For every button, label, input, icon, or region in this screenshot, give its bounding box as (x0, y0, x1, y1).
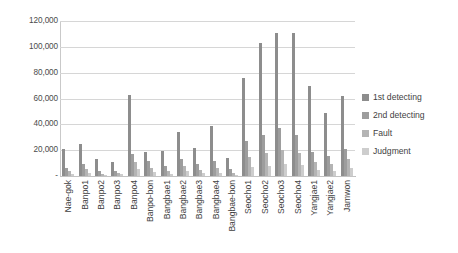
y-axis: -20,00040,00060,00080,000100,000120,000 (3, 0, 58, 253)
x-axis: Nae-gokBanpo1Banpo2Banpo3Banpo4Banpo-bon… (60, 178, 355, 253)
x-axis-tick-label: Bangbae-bon (228, 128, 237, 180)
x-axis-tick-label: Bangbae1 (163, 141, 172, 180)
x-axis-tick-label: Yangjae2 (326, 144, 335, 180)
x-axis-tick: Yangjae2 (322, 178, 338, 253)
x-axis-tick-label: Seocho3 (277, 146, 286, 180)
x-axis-tick-label: Bangbae4 (212, 141, 221, 180)
x-axis-tick: Bangbae-bon (224, 178, 240, 253)
y-axis-tick-label: 60,000 (6, 95, 58, 103)
x-axis-tick: Seocho1 (240, 178, 256, 253)
y-axis-tick-label: - (6, 172, 58, 180)
x-axis-tick: Bangbae3 (191, 178, 207, 253)
x-axis-tick-label: Yangjae1 (310, 144, 319, 180)
x-axis-tick: Banpo3 (109, 178, 125, 253)
x-axis-tick-label: Banpo4 (130, 150, 139, 180)
legend-swatch-icon (362, 148, 369, 155)
x-axis-tick-label: Nae-gok (64, 148, 73, 180)
x-axis-tick: Banpo-bon (142, 178, 158, 253)
y-axis-tick-label: 20,000 (6, 146, 58, 154)
legend-item-label: Fault (373, 129, 392, 138)
x-axis-tick-label: Bangbae3 (195, 141, 204, 180)
y-axis-tick-label: 120,000 (6, 17, 58, 25)
legend-item[interactable]: Judgment (362, 142, 456, 160)
legend-item[interactable]: 2nd detecting (362, 106, 456, 124)
x-axis-tick: Banpo2 (93, 178, 109, 253)
x-axis-tick: Banpo1 (76, 178, 92, 253)
legend-item-label: 1st detecting (373, 93, 422, 102)
x-axis-tick: Seocho3 (273, 178, 289, 253)
x-axis-tick-label: Banpo2 (97, 150, 106, 180)
x-axis-tick: Yangjae1 (306, 178, 322, 253)
x-axis-tick: Bangbae4 (208, 178, 224, 253)
bar-chart: -20,00040,00060,00080,000100,000120,000 … (0, 0, 458, 253)
x-axis-tick: Bangbae2 (175, 178, 191, 253)
chart-legend: 1st detecting2nd detectingFaultJudgment (362, 88, 456, 160)
legend-swatch-icon (362, 130, 369, 137)
legend-item-label: Judgment (373, 147, 411, 156)
x-axis-tick: Banpo4 (126, 178, 142, 253)
x-axis-tick: Nae-gok (60, 178, 76, 253)
y-axis-tick-label: 40,000 (6, 120, 58, 128)
legend-item[interactable]: 1st detecting (362, 88, 456, 106)
x-axis-tick-label: Banpo1 (81, 150, 90, 180)
legend-item[interactable]: Fault (362, 124, 456, 142)
legend-swatch-icon (362, 94, 369, 101)
legend-item-label: 2nd detecting (373, 111, 425, 120)
x-axis-tick-label: Seocho2 (261, 146, 270, 180)
x-axis-tick-label: Bangbae2 (179, 141, 188, 180)
x-axis-tick: Seocho4 (289, 178, 305, 253)
legend-swatch-icon (362, 112, 369, 119)
x-axis-tick-label: Banpo-bon (146, 138, 155, 180)
x-axis-tick-label: Banpo3 (113, 150, 122, 180)
y-axis-tick-label: 100,000 (6, 43, 58, 51)
y-axis-tick-label: 80,000 (6, 69, 58, 77)
x-axis-tick: Seocho2 (257, 178, 273, 253)
x-axis-tick: Jamwon (339, 178, 355, 253)
x-axis-tick-label: Jamwon (343, 148, 352, 180)
x-axis-tick-label: Seocho1 (244, 146, 253, 180)
x-axis-tick-label: Seocho4 (294, 146, 303, 180)
x-axis-tick: Bangbae1 (158, 178, 174, 253)
